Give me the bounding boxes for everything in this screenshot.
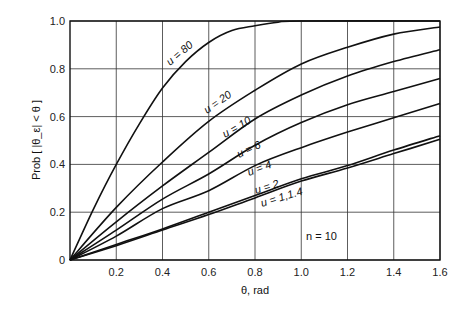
y-tick-label: 0 [59,254,65,266]
x-tick-label: 1.4 [386,266,401,278]
x-axis-title: θ, rad [241,284,269,296]
y-axis-ticks: 00.20.40.60.81.0 [50,15,65,266]
x-tick-label: 0.8 [247,266,262,278]
y-tick-label: 0.6 [50,111,65,123]
curve-label: u = 6 [235,138,263,160]
x-tick-label: 0.2 [109,266,124,278]
x-tick-label: 0.6 [201,266,216,278]
x-tick-label: 1.6 [432,266,447,278]
x-axis-ticks: 0.20.40.60.81.01.21.41.6 [109,266,448,278]
y-tick-label: 0.2 [50,206,65,218]
x-tick-label: 1.0 [294,266,309,278]
probability-chart: 0.20.40.60.81.01.21.41.6 00.20.40.60.81.… [0,0,466,313]
y-tick-label: 1.0 [50,15,65,27]
curve-label: u = 10 [220,113,254,139]
x-tick-label: 0.4 [155,266,170,278]
curve-label: u = 80 [164,38,196,68]
y-axis-title: Prob [ |θ_ε| < θ ] [30,100,42,180]
y-tick-label: 0.4 [50,158,65,170]
y-tick-label: 0.8 [50,63,65,75]
curve-label: u = 20 [201,88,234,116]
n-annotation: n = 10 [306,230,337,242]
curve-label: u = 4 [246,158,273,178]
x-tick-label: 1.2 [340,266,355,278]
